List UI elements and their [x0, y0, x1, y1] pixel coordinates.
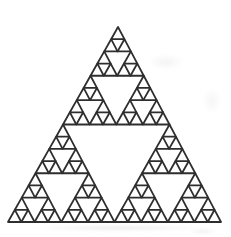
- sierpinski-cell: [137, 76, 150, 88]
- sierpinski-cell: [90, 112, 103, 124]
- sierpinski-cell: [61, 210, 74, 222]
- sierpinski-cell: [49, 161, 62, 173]
- sierpinski-cell: [176, 149, 189, 161]
- sierpinski-cell: [48, 210, 61, 222]
- sierpinski-cell: [130, 64, 143, 76]
- sierpinski-cell: [148, 198, 161, 210]
- sierpinski-cell: [142, 161, 155, 173]
- sierpinski-cell: [88, 185, 101, 197]
- sierpinski-cell: [63, 137, 76, 149]
- sierpinski-cell: [118, 39, 131, 51]
- sierpinski-cell: [8, 210, 21, 222]
- sierpinski-cell: [121, 198, 134, 210]
- sierpinski-cell: [22, 185, 35, 197]
- sierpinski-cell: [62, 161, 75, 173]
- sierpinski-cell: [150, 100, 163, 112]
- sierpinski-cell: [69, 149, 82, 161]
- sierpinski-cell: [115, 210, 128, 222]
- sierpinski-cell: [97, 100, 110, 112]
- sierpinski-cell: [168, 210, 181, 222]
- sierpinski-cell: [135, 173, 148, 185]
- sierpinski-cell: [182, 161, 195, 173]
- sierpinski-cell: [70, 100, 83, 112]
- sierpinski-cell: [194, 210, 207, 222]
- sierpinski-cell: [142, 185, 155, 197]
- sierpinski-cell: [63, 112, 76, 124]
- sierpinski-cell: [49, 137, 62, 149]
- sierpinski-cell: [182, 185, 195, 197]
- sierpinski-cell: [90, 88, 103, 100]
- sierpinski-cell: [84, 76, 97, 88]
- sierpinski-cell: [130, 112, 143, 124]
- sierpinski-cell: [124, 51, 137, 63]
- sierpinski-cell: [188, 173, 201, 185]
- sierpinski-cell: [103, 112, 116, 124]
- sierpinski-cell: [163, 125, 176, 137]
- sierpinski-cell: [201, 198, 214, 210]
- sierpinski-cell: [29, 173, 42, 185]
- sierpinski-cell: [97, 51, 110, 63]
- sierpinski-cell: [68, 198, 81, 210]
- sierpinski-cell: [181, 210, 194, 222]
- sierpinski-cell: [128, 185, 141, 197]
- sierpinski-cell: [95, 198, 108, 210]
- sierpinski-cell: [208, 210, 221, 222]
- sierpinski-cell: [21, 210, 34, 222]
- sierpinski-cell: [15, 198, 28, 210]
- sierpinski-cell: [111, 27, 124, 39]
- sierpinski-cell: [130, 88, 143, 100]
- sierpinski-cell: [75, 161, 88, 173]
- sierpinski-cell: [35, 210, 48, 222]
- sierpinski-cell: [143, 112, 156, 124]
- sierpinski-cell: [42, 198, 55, 210]
- sierpinski-cell: [128, 210, 141, 222]
- sierpinski-cell: [42, 149, 55, 161]
- sierpinski-cell: [154, 210, 167, 222]
- sierpinski-cell: [123, 100, 136, 112]
- sierpinski-cell: [175, 198, 188, 210]
- sierpinski-cell: [77, 88, 90, 100]
- sierpinski-cell: [156, 112, 169, 124]
- sierpinski-cell: [169, 161, 182, 173]
- sierpinski-cell: [195, 185, 208, 197]
- sierpinski-cell: [82, 173, 95, 185]
- sierpinski-cell: [156, 137, 169, 149]
- sierpinski-cell: [76, 112, 89, 124]
- sierpinski-cell: [169, 137, 182, 149]
- sierpinski-cell: [143, 88, 156, 100]
- sierpinski-cell: [35, 185, 48, 197]
- sierpinski-cell: [75, 185, 88, 197]
- sierpinski-cell: [104, 39, 117, 51]
- sierpinski-triangle-svg: [0, 0, 231, 237]
- sierpinski-cell: [141, 210, 154, 222]
- sierpinski-cell: [101, 210, 114, 222]
- sierpinski-cell: [116, 112, 129, 124]
- sierpinski-cell: [56, 125, 69, 137]
- sierpinski-figure: [0, 0, 231, 237]
- sierpinski-cell: [91, 64, 104, 76]
- sierpinski-cell: [36, 161, 49, 173]
- sierpinski-cell: [75, 210, 88, 222]
- sierpinski-cell: [149, 149, 162, 161]
- sierpinski-cell: [104, 64, 117, 76]
- sierpinski-cell: [155, 161, 168, 173]
- sierpinski-cell: [88, 210, 101, 222]
- sierpinski-cell: [117, 64, 130, 76]
